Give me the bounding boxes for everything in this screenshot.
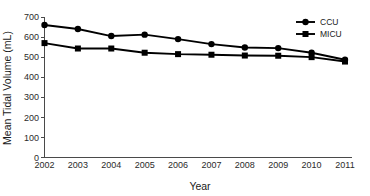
circle-marker-icon [302,19,308,25]
data-point [108,46,114,52]
data-point [342,59,348,65]
data-point [208,41,214,47]
data-point [41,22,47,28]
y-tick-label-600: 600 [24,32,39,42]
legend-item-micu[interactable]: MICU [296,29,342,39]
x-tick-label-2005: 2005 [135,160,155,170]
data-point [75,26,81,32]
y-axis-title: Mean Tidal Volume (mL) [1,31,13,145]
y-tick-label-700: 700 [24,12,39,22]
line-chart: 0100200300400500600700 20022003200420052… [0,0,370,196]
data-series-group [41,22,348,65]
legend-label: MICU [320,29,342,39]
data-point [175,36,181,42]
x-tick-label-2008: 2008 [235,160,255,170]
series-line-micu [45,43,346,61]
x-axis-title: Year [189,180,211,192]
data-point [275,45,281,51]
data-point [42,40,48,46]
x-tick-label-2007: 2007 [201,160,221,170]
x-tick-label-2011: 2011 [335,160,354,170]
chart-legend: CCUMICU [296,17,342,39]
chart-canvas: 0100200300400500600700 20022003200420052… [0,0,370,196]
square-marker-icon [303,31,309,37]
x-tick-label-2003: 2003 [68,160,88,170]
y-axis-tick-labels: 0100200300400500600700 [24,12,39,163]
x-tick-label-2002: 2002 [34,160,54,170]
y-axis: 0100200300400500600700 [24,12,45,163]
legend-label: CCU [320,17,338,27]
data-point [142,50,148,56]
data-point [208,52,214,58]
y-tick-label-300: 300 [24,92,39,102]
data-point [175,51,181,57]
legend-item-ccu[interactable]: CCU [296,17,338,27]
y-tick-label-100: 100 [24,133,39,143]
x-axis: 2002200320042005200620072008200920102011 [34,158,354,171]
x-tick-label-2006: 2006 [168,160,188,170]
y-tick-label-200: 200 [24,113,39,123]
x-tick-label-2004: 2004 [101,160,121,170]
data-point [141,31,147,37]
y-axis-ticks [41,17,45,158]
x-axis-tick-labels: 2002200320042005200620072008200920102011 [34,160,354,170]
data-point [242,44,248,50]
data-point [108,33,114,39]
data-point [75,46,81,52]
data-point [242,53,248,59]
y-tick-label-500: 500 [24,52,39,62]
data-point [275,53,281,59]
x-tick-label-2010: 2010 [302,160,322,170]
data-point [309,54,315,60]
y-tick-label-400: 400 [24,72,39,82]
x-tick-label-2009: 2009 [268,160,288,170]
